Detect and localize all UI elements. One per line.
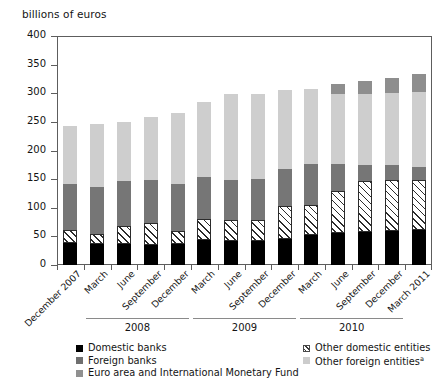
bar: [90, 124, 104, 265]
bar-segment-other-domestic-entities: [358, 181, 372, 232]
bar-segment-other-domestic-entities: [385, 180, 399, 231]
bar-segment-domestic-banks: [331, 233, 345, 265]
bar-segment-domestic-banks: [358, 232, 372, 265]
bar: [385, 78, 399, 265]
y-axis-tick-label: 350: [27, 58, 46, 69]
legend-item[interactable]: Other foreign entitiesa: [303, 355, 430, 368]
bar: [144, 117, 158, 265]
bar-segment-euro-area-imf: [331, 84, 345, 94]
bar-segment-other-foreign-entities: [171, 113, 185, 185]
legend-swatch-icon: [76, 345, 83, 352]
bar-segment-foreign-banks: [331, 164, 345, 191]
legend-swatch-icon: [303, 345, 310, 352]
legend-item[interactable]: Foreign banks: [76, 355, 299, 368]
bar-segment-foreign-banks: [358, 165, 372, 180]
bar-segment-other-foreign-entities: [385, 93, 399, 165]
legend-swatch-icon: [303, 357, 310, 364]
bar-segment-other-foreign-entities: [90, 124, 104, 187]
bar-segment-foreign-banks: [90, 187, 104, 233]
x-axis-label: March: [296, 268, 324, 296]
bar-segment-domestic-banks: [171, 244, 185, 265]
bar-segment-other-foreign-entities: [197, 102, 211, 177]
bar-segment-other-domestic-entities: [171, 231, 185, 244]
bar-segment-domestic-banks: [251, 241, 265, 265]
bar: [304, 89, 318, 265]
bar-segment-foreign-banks: [224, 180, 238, 220]
bar-segment-euro-area-imf: [412, 74, 426, 92]
year-group: 2010: [300, 318, 403, 342]
bar: [63, 126, 77, 265]
bar-segment-other-foreign-entities: [331, 94, 345, 164]
x-axis-labels: December 2007MarchJuneSeptemberDecemberM…: [0, 266, 444, 326]
bar-segment-other-domestic-entities: [144, 223, 158, 245]
bar-segment-other-foreign-entities: [63, 126, 77, 184]
y-axis-tick-label: 300: [27, 86, 46, 97]
bar: [197, 102, 211, 265]
bar-segment-other-foreign-entities: [304, 89, 318, 164]
bar-segment-euro-area-imf: [358, 81, 372, 95]
y-axis-tick-label: 400: [27, 29, 46, 40]
y-axis-tick-label: 100: [27, 201, 46, 212]
bar-segment-foreign-banks: [251, 179, 265, 220]
bar-segment-other-domestic-entities: [117, 226, 131, 245]
legend-swatch-icon: [76, 357, 83, 364]
chart-legend: Domestic banksForeign banksEuro area and…: [0, 342, 444, 388]
bars-container: [57, 36, 432, 265]
bar-segment-other-foreign-entities: [144, 117, 158, 180]
legend-label: Domestic banks: [88, 342, 167, 355]
bar-segment-euro-area-imf: [385, 78, 399, 93]
x-axis-label: June: [329, 268, 351, 290]
bar-segment-foreign-banks: [197, 177, 211, 219]
x-axis-label: March: [189, 268, 217, 296]
bar-segment-domestic-banks: [197, 240, 211, 265]
bar-segment-foreign-banks: [412, 167, 426, 181]
bar-segment-other-domestic-entities: [197, 219, 211, 240]
y-axis-tick-label: 250: [27, 115, 46, 126]
bar-segment-other-foreign-entities: [224, 94, 238, 180]
bar-segment-domestic-banks: [278, 239, 292, 265]
bar-segment-other-domestic-entities: [304, 205, 318, 235]
year-group-label: 2010: [300, 322, 403, 333]
bar-segment-other-foreign-entities: [251, 94, 265, 179]
year-group-line: [86, 318, 189, 319]
bar-segment-foreign-banks: [304, 164, 318, 205]
bar-segment-domestic-banks: [412, 230, 426, 265]
bar: [412, 74, 426, 265]
bar-segment-other-foreign-entities: [117, 122, 131, 181]
bar-segment-foreign-banks: [144, 180, 158, 222]
legend-item[interactable]: Domestic banks: [76, 342, 299, 355]
year-group: 2008: [86, 318, 189, 342]
y-axis-tick-label: 150: [27, 172, 46, 183]
bar-segment-foreign-banks: [63, 184, 77, 229]
legend-label: Other foreign entitiesa: [315, 353, 424, 369]
bar-segment-other-domestic-entities: [412, 180, 426, 230]
bar-segment-domestic-banks: [144, 245, 158, 265]
bar: [117, 122, 131, 265]
legend-label: Foreign banks: [88, 355, 157, 368]
legend-swatch-icon: [76, 370, 83, 377]
bar-segment-domestic-banks: [304, 235, 318, 265]
bar-segment-domestic-banks: [90, 244, 104, 265]
bar-segment-domestic-banks: [385, 231, 399, 265]
bar: [358, 81, 372, 265]
legend-item[interactable]: Euro area and International Monetary Fun…: [76, 367, 299, 380]
year-group: 2009: [193, 318, 296, 342]
bar-segment-other-foreign-entities: [278, 90, 292, 168]
year-group-brackets: 200820092010: [57, 318, 432, 344]
x-axis-label: March: [82, 268, 110, 296]
stacked-bar-chart: billions of euros 0501001502002503003504…: [0, 0, 444, 391]
bar-segment-foreign-banks: [385, 165, 399, 179]
bar-segment-other-foreign-entities: [358, 94, 372, 165]
bar-segment-other-domestic-entities: [90, 234, 104, 245]
bar-segment-domestic-banks: [63, 243, 77, 265]
bar-segment-domestic-banks: [117, 244, 131, 265]
legend-footnote-marker: a: [420, 355, 424, 363]
year-group-label: 2009: [193, 322, 296, 333]
x-axis-label: June: [222, 268, 244, 290]
bar-segment-other-foreign-entities: [412, 92, 426, 166]
bar-segment-other-domestic-entities: [251, 220, 265, 241]
bar-segment-other-domestic-entities: [224, 220, 238, 241]
bar-segment-other-domestic-entities: [278, 206, 292, 239]
bar-segment-other-domestic-entities: [331, 191, 345, 233]
bar: [278, 90, 292, 265]
